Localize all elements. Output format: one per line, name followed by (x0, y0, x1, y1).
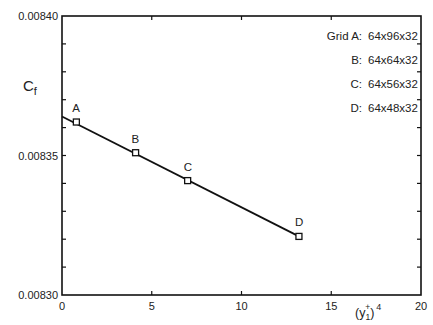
data-series: ABCD (62, 102, 303, 239)
x-axis-label-exp: 4 (376, 302, 381, 312)
chart: 051015200.008300.008350.00840 ABCD Grid … (0, 0, 433, 325)
y-axis-label: Cf (23, 77, 38, 97)
legend-key: D: (351, 102, 363, 114)
x-tick-label: 20 (415, 300, 427, 312)
point-label-c: C (184, 161, 192, 173)
y-tick-label: 0.00830 (18, 289, 58, 301)
legend-value: 64x56x32 (368, 78, 418, 90)
y-tick-label: 0.00840 (18, 10, 58, 22)
x-tick-label: 5 (149, 300, 155, 312)
point-label-a: A (72, 102, 80, 114)
x-tick-label: 0 (59, 300, 65, 312)
y-tick-label: 0.00835 (18, 150, 58, 162)
point-label-b: B (132, 133, 140, 145)
x-tick-label: 10 (235, 300, 247, 312)
data-point-c (185, 178, 191, 184)
legend-key: B: (351, 54, 362, 66)
y-axis-label-main: C (23, 77, 34, 94)
data-point-b (133, 150, 139, 156)
legend-key: C: (351, 78, 363, 90)
legend-value: 64x64x32 (368, 54, 418, 66)
legend: Grid A:64x96x32B:64x64x32C:64x56x32D:64x… (327, 30, 418, 114)
tick-labels: 051015200.008300.008350.00840 (18, 10, 427, 312)
legend-value: 64x96x32 (368, 30, 418, 42)
x-tick-label: 15 (325, 300, 337, 312)
x-axis-label: (y1+)4 (355, 302, 381, 322)
y-axis-label-sub: f (34, 85, 38, 97)
legend-value: 64x48x32 (368, 102, 418, 114)
data-point-a (73, 119, 79, 125)
point-label-d: D (295, 216, 303, 228)
fit-line (62, 116, 299, 236)
x-axis-label-close: ) (370, 306, 374, 320)
data-point-d (296, 233, 302, 239)
legend-key: Grid A: (327, 30, 362, 42)
